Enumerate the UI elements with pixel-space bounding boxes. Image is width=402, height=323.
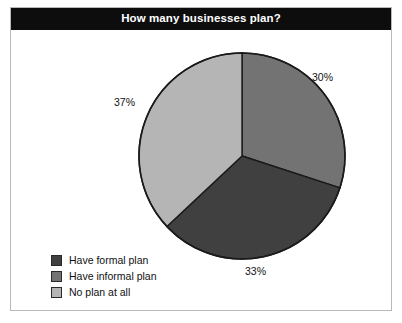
legend-item-have-formal-plan[interactable]: Have formal plan xyxy=(51,252,157,268)
chart-title-bar: How many businesses plan? xyxy=(11,8,391,30)
legend-swatch-have-informal-plan xyxy=(51,271,62,282)
chart-legend: Have formal plan Have informal plan No p… xyxy=(51,252,157,300)
legend-swatch-no-plan-at-all xyxy=(51,287,62,298)
chart-title: How many businesses plan? xyxy=(121,13,281,25)
legend-label-have-formal-plan: Have formal plan xyxy=(69,255,148,266)
pie-value-label-no-plan-at-all: 37% xyxy=(114,97,135,108)
chart-frame: How many businesses plan? 30% 33% 37% Ha… xyxy=(10,7,392,311)
legend-item-have-informal-plan[interactable]: Have informal plan xyxy=(51,268,157,284)
legend-item-no-plan-at-all[interactable]: No plan at all xyxy=(51,284,157,300)
pie-value-label-have-informal-plan: 30% xyxy=(312,72,333,83)
legend-label-no-plan-at-all: No plan at all xyxy=(69,287,130,298)
legend-label-have-informal-plan: Have informal plan xyxy=(69,271,157,282)
legend-swatch-have-formal-plan xyxy=(51,255,62,266)
pie-chart-plot-area: 30% 33% 37% Have formal plan Have inform… xyxy=(11,30,391,310)
pie-value-label-have-formal-plan: 33% xyxy=(245,266,266,277)
pie-slices xyxy=(139,53,345,259)
